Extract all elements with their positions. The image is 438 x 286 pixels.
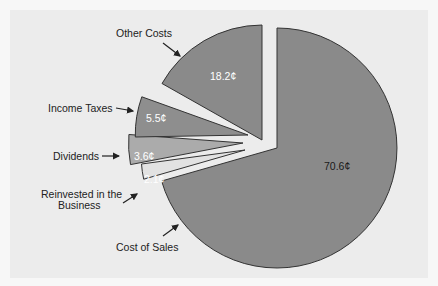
arrow-cost-of-sales xyxy=(163,225,178,236)
arrow-reinvested xyxy=(123,194,137,203)
arrow-other-costs xyxy=(163,43,180,56)
value-cost-of-sales: 70.6¢ xyxy=(324,160,350,172)
value-other-costs: 18.2¢ xyxy=(210,70,236,82)
value-dividends: 3.6¢ xyxy=(134,150,155,162)
label-other-costs: Other Costs xyxy=(116,27,172,39)
arrow-income-taxes xyxy=(116,108,133,111)
value-income-taxes: 5.5¢ xyxy=(146,112,167,124)
value-reinvested: 2.1¢ xyxy=(144,173,165,185)
label-cost-of-sales: Cost of Sales xyxy=(116,241,178,253)
label-reinvested-line2: Business xyxy=(58,199,101,211)
label-dividends: Dividends xyxy=(53,150,99,162)
pie-chart: 70.6¢ 18.2¢ 5.5¢ 3.6¢ 2.1¢ Other Costs I… xyxy=(0,0,438,286)
label-income-taxes: Income Taxes xyxy=(48,102,113,114)
